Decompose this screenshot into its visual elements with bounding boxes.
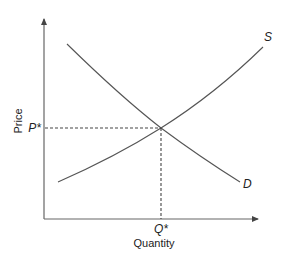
x-axis-label: Quantity (134, 237, 175, 249)
supply-curve (58, 47, 263, 182)
demand-curve-label: D (243, 177, 252, 191)
supply-curve-label: S (264, 30, 272, 44)
demand-curve (67, 44, 240, 182)
y-axis-label: Price (12, 108, 24, 133)
supply-demand-diagram: Price P* Q* Quantity S D (0, 0, 290, 259)
price-equilibrium-label: P* (28, 121, 41, 135)
quantity-equilibrium-label: Q* (154, 222, 168, 236)
